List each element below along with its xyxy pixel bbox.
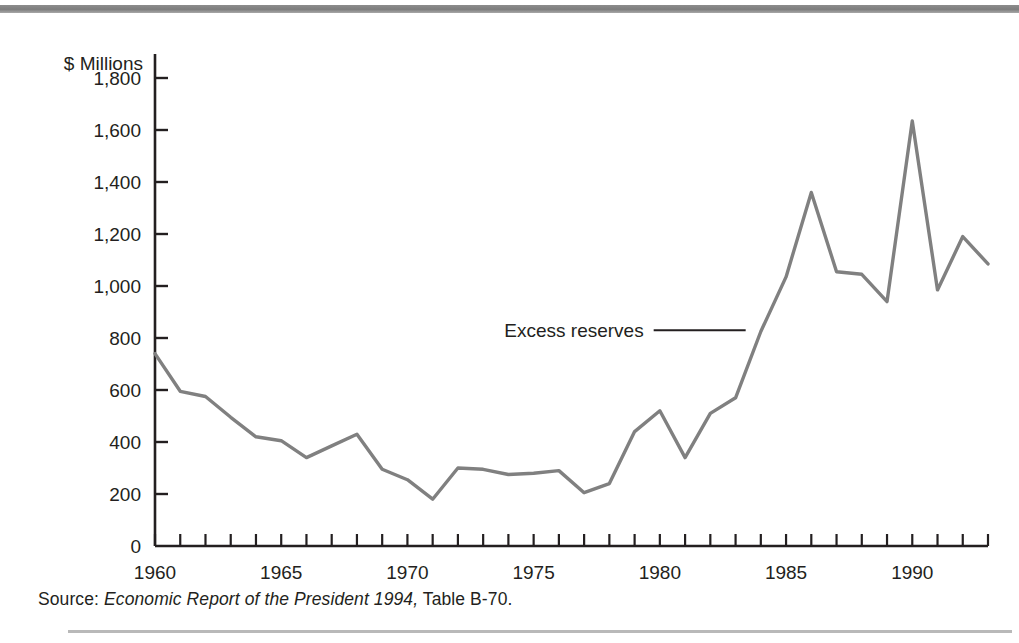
y-tick-label: 1,600 bbox=[93, 120, 141, 141]
x-tick-label: 1970 bbox=[386, 562, 428, 583]
x-tick-label: 1965 bbox=[260, 562, 302, 583]
source-title: Economic Report of the President 1994, bbox=[99, 589, 418, 609]
y-tick-label: 800 bbox=[109, 328, 141, 349]
source-citation: Source:Economic Report of the President … bbox=[38, 589, 512, 610]
y-tick-label: 0 bbox=[130, 536, 141, 557]
y-axis-unit-label: $ Millions bbox=[64, 53, 143, 74]
x-tick-label: 1990 bbox=[891, 562, 933, 583]
chart-plot-area: 02004006008001,0001,2001,4001,6001,800 1… bbox=[0, 14, 1019, 589]
series-line-excess-reserves bbox=[155, 121, 988, 499]
x-tick-label: 1985 bbox=[765, 562, 807, 583]
y-tick-label: 1,200 bbox=[93, 224, 141, 245]
x-tick-label: 1980 bbox=[639, 562, 681, 583]
y-tick-label: 600 bbox=[109, 380, 141, 401]
x-tick-label: 1960 bbox=[134, 562, 176, 583]
source-table-ref: Table B-70. bbox=[423, 589, 513, 609]
x-axis: 1960196519701975198019851990 bbox=[134, 534, 988, 583]
source-label: Source: bbox=[38, 589, 99, 609]
y-tick-label: 1,400 bbox=[93, 172, 141, 193]
y-tick-label: 400 bbox=[109, 432, 141, 453]
annotation-group: Excess reserves bbox=[504, 320, 745, 341]
annotation-label-excess-reserves: Excess reserves bbox=[504, 320, 643, 341]
top-divider-rule bbox=[0, 5, 1019, 13]
figure-root: 02004006008001,0001,2001,4001,6001,800 1… bbox=[0, 0, 1019, 643]
y-axis: 02004006008001,0001,2001,4001,6001,800 bbox=[93, 54, 168, 557]
y-tick-label: 1,000 bbox=[93, 276, 141, 297]
data-series-group bbox=[155, 121, 988, 499]
y-tick-label: 200 bbox=[109, 484, 141, 505]
x-tick-label: 1975 bbox=[512, 562, 554, 583]
bottom-divider-rule bbox=[68, 630, 1012, 633]
line-chart-svg: 02004006008001,0001,2001,4001,6001,800 1… bbox=[0, 14, 1019, 589]
